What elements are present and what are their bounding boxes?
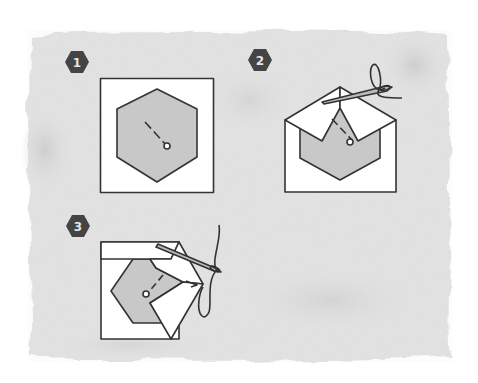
step-2-number: 2 — [256, 54, 264, 68]
step-3-number: 3 — [74, 220, 82, 234]
watercolor-background — [20, 30, 452, 362]
stitch-point-icon — [347, 139, 353, 145]
step-1-illustration — [101, 79, 214, 193]
diagram: 1 2 3 — [0, 0, 478, 383]
stitch-point-icon — [143, 291, 149, 297]
stitch-point-icon — [164, 143, 170, 149]
step-1-number: 1 — [73, 56, 81, 70]
